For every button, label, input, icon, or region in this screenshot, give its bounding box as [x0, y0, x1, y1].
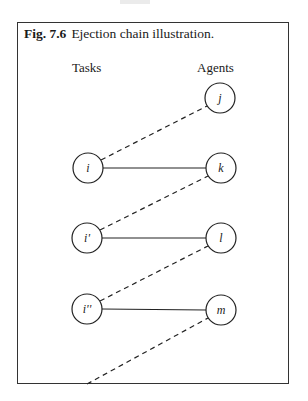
label-i: i [86, 161, 89, 175]
edge-i2-m [102, 309, 206, 310]
label-i-double-prime: i'' [83, 302, 92, 316]
dashed-edge-i1-k [100, 176, 208, 230]
ejection-chain-diagram: i i' i'' j k l m [0, 0, 308, 401]
dashed-edge-i-j [101, 106, 207, 160]
dashed-edge-out-m [87, 318, 208, 384]
label-k: k [218, 161, 224, 175]
label-m: m [217, 303, 226, 317]
dashed-edge-i2-l [100, 246, 208, 301]
label-i-prime: i' [84, 231, 90, 245]
